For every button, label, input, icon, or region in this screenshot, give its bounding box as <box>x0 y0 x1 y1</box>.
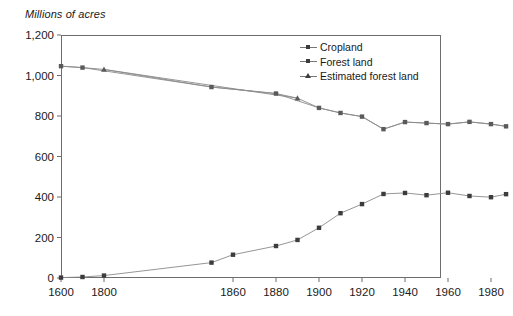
data-point-marker <box>381 127 385 131</box>
data-point-marker <box>446 191 450 195</box>
data-point-marker <box>274 244 278 248</box>
data-point-marker <box>446 122 450 126</box>
data-point-marker <box>338 111 342 115</box>
data-point-marker <box>403 120 407 124</box>
legend-marker-icon <box>300 43 317 52</box>
data-point-marker <box>504 124 508 128</box>
series-line <box>61 193 506 278</box>
series-line <box>61 66 506 129</box>
data-point-marker <box>489 195 493 199</box>
legend-item[interactable]: Forest land <box>300 55 419 70</box>
forest-combined-line <box>61 66 506 129</box>
data-point-marker <box>80 65 84 69</box>
x-tick-label: 1980 <box>468 286 513 298</box>
data-point-marker <box>338 211 342 215</box>
data-series-paths <box>59 64 508 280</box>
data-point-marker <box>231 253 235 257</box>
data-point-marker <box>424 193 428 197</box>
data-point-marker <box>59 275 63 279</box>
data-point-marker <box>317 106 321 110</box>
chart-legend: CroplandForest landEstimated forest land <box>300 40 419 84</box>
data-point-marker <box>403 191 407 195</box>
data-point-marker <box>504 192 508 196</box>
legend-marker-icon <box>300 72 317 81</box>
data-point-marker <box>424 121 428 125</box>
legend-item-label: Forest land <box>320 55 373 70</box>
legend-item[interactable]: Estimated forest land <box>300 69 419 84</box>
legend-item-label: Cropland <box>320 40 363 55</box>
data-point-marker <box>489 122 493 126</box>
data-point-marker <box>102 273 106 277</box>
data-point-marker <box>381 192 385 196</box>
data-point-marker <box>467 120 471 124</box>
data-point-marker <box>295 238 299 242</box>
legend-item-label: Estimated forest land <box>320 69 419 84</box>
data-point-marker <box>209 85 213 89</box>
data-point-marker <box>80 275 84 279</box>
data-point-marker <box>360 202 364 206</box>
legend-marker-icon <box>300 57 317 66</box>
data-point-marker <box>467 194 471 198</box>
data-point-marker <box>209 260 213 264</box>
data-point-marker <box>59 64 63 68</box>
legend-item[interactable]: Cropland <box>300 40 419 55</box>
data-point-marker <box>274 91 278 95</box>
data-point-marker <box>360 114 364 118</box>
data-point-marker <box>317 226 321 230</box>
